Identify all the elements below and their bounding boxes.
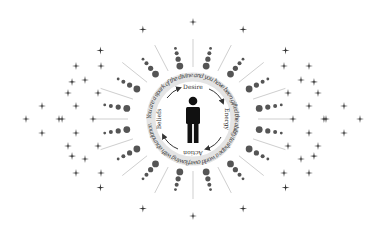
star-icon [97,169,105,177]
star-icon [297,155,305,163]
dot [117,158,120,161]
star-icon [340,129,348,137]
dot [116,104,121,109]
dot [209,188,212,191]
dot [121,80,125,84]
dot [242,58,245,61]
dot [203,63,210,70]
dot [265,104,270,109]
dot [174,188,177,191]
star-icon [314,89,322,97]
star-icon [305,129,313,137]
ray-line [101,139,133,150]
label-action: Action [183,150,204,157]
ray-line [218,45,231,71]
dot [152,160,159,167]
star-icon [189,212,197,220]
dot [116,128,121,133]
star-icon [72,129,80,137]
star-icon [94,89,102,97]
dot [176,63,183,70]
star-icon [81,155,89,163]
star-icon [81,76,89,84]
ray-line [122,156,147,176]
person-icon [186,97,200,143]
star-icon [89,115,97,123]
dot [273,130,277,134]
dot [203,169,210,176]
dot [207,183,211,187]
dot [148,66,153,71]
dot [233,167,238,172]
dot [123,126,130,133]
star-icon [239,25,247,33]
star-icon [282,184,290,192]
star-icon [356,115,364,123]
star-icon [55,115,63,123]
star-icon [239,205,247,213]
dot [238,173,242,177]
dot [144,173,148,177]
star-icon [282,46,290,54]
dot [103,104,106,107]
star-icon [305,102,313,110]
dot [127,150,132,155]
dot [265,128,270,133]
dot [109,104,113,108]
dot [103,132,106,135]
dot [176,176,181,181]
dot [266,158,269,161]
dot [205,57,210,62]
dot [175,183,179,187]
dot [261,154,265,158]
star-icon [139,25,147,33]
star-icon [310,152,318,160]
dot [254,83,259,88]
dot [256,105,263,112]
label-energy: Energy [223,108,231,131]
star-icon [22,115,30,123]
star-icon [72,102,80,110]
dot [242,177,245,180]
dot [174,47,177,50]
star-icon [38,129,46,137]
label-desire: Desire [183,83,203,90]
dot [209,47,212,50]
dot [261,80,265,84]
dot [176,57,181,62]
label-beliefs: Beliefs [155,109,162,130]
ray-line [155,167,168,193]
dot [238,61,242,65]
ray-line [239,156,264,176]
star-icon [305,62,313,70]
dot [148,167,153,172]
ray-line [253,88,285,99]
abundance-cycle-diagram: You are a spark of the divine and you ha… [0,0,386,238]
dot [176,169,183,176]
dot [280,132,283,135]
dot [254,150,259,155]
dot [280,104,283,107]
ray-line [253,139,285,150]
dot [123,105,130,112]
dot [142,58,145,61]
dot [175,51,179,55]
dot [273,104,277,108]
star-icon [38,102,46,110]
star-icon [284,142,292,150]
dot [227,71,234,78]
star-icon [310,78,318,86]
star-icon [72,62,80,70]
star-icon [96,184,104,192]
star-icon [189,18,197,26]
dot [207,51,211,55]
dot [133,86,140,93]
ray-line [155,45,168,71]
star-icon [305,169,313,177]
dot [246,146,253,153]
ray-line [122,62,147,82]
star-icon [64,142,72,150]
dot [127,83,132,88]
dot [233,66,238,71]
dot [133,146,140,153]
